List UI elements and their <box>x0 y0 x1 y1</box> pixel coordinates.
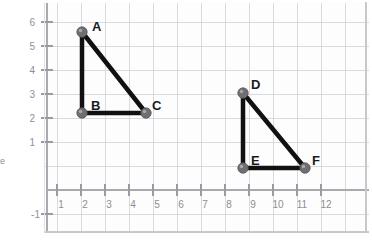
x-tick-label-5: 5 <box>154 199 160 210</box>
x-tick-label-12: 12 <box>320 199 332 210</box>
x-tick-label-10: 10 <box>272 199 284 210</box>
x-tick-label-9: 9 <box>250 199 256 210</box>
vertex-point-d[interactable] <box>238 88 248 98</box>
vertex-label-c: C <box>152 98 162 113</box>
x-tick-label-4: 4 <box>130 199 136 210</box>
y-tick-label-3: 3 <box>29 89 35 100</box>
y-tick-label-5: 5 <box>29 41 35 52</box>
vertex-point-f[interactable] <box>300 163 310 173</box>
vertex-highlight-b <box>79 110 83 114</box>
y-tick-label-neg1: -1 <box>31 209 40 220</box>
vertex-highlight-d <box>240 90 244 94</box>
vertex-point-e[interactable] <box>238 163 248 173</box>
y-tick-label-1: 1 <box>29 137 35 148</box>
graph-canvas: 6 5 4 3 2 1 -1 1 2 3 4 5 6 7 8 9 10 11 1… <box>0 0 372 240</box>
vertex-label-f: F <box>312 153 320 168</box>
x-tick-label-11: 11 <box>297 199 308 210</box>
x-tick-label-3: 3 <box>106 199 112 210</box>
vertex-point-b[interactable] <box>77 108 87 118</box>
coordinate-plane: 6 5 4 3 2 1 -1 1 2 3 4 5 6 7 8 9 10 11 1… <box>0 0 372 240</box>
vertex-highlight-c <box>143 110 147 114</box>
y-tick-label-2: 2 <box>29 113 35 124</box>
x-tick-label-6: 6 <box>178 199 184 210</box>
y-tick-label-4: 4 <box>29 65 35 76</box>
x-tick-label-2: 2 <box>82 199 88 210</box>
vertex-point-c[interactable] <box>141 108 151 118</box>
vertex-label-e: E <box>251 153 260 168</box>
vertex-label-a: A <box>92 19 102 34</box>
vertex-label-d: D <box>251 77 260 92</box>
vertex-highlight-a <box>79 29 83 33</box>
y-tick-label-6: 6 <box>29 17 35 28</box>
x-tick-label-1: 1 <box>58 199 64 210</box>
vertex-label-b: B <box>91 98 100 113</box>
vertex-point-a[interactable] <box>77 27 87 37</box>
margin-glyph: e <box>0 156 5 166</box>
x-tick-label-8: 8 <box>226 199 232 210</box>
vertex-highlight-f <box>302 165 306 169</box>
x-tick-label-7: 7 <box>202 199 208 210</box>
vertex-highlight-e <box>240 165 244 169</box>
